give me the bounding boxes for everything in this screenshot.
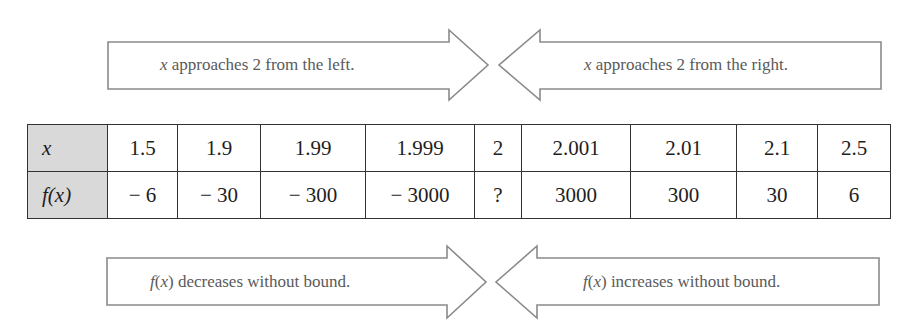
right-approach-label: x approaches 2 from the right.: [584, 56, 788, 73]
table-cell: 2.5: [818, 125, 891, 172]
left-approach-label: x approaches 2 from the left.: [160, 56, 354, 73]
table-cell: 6: [818, 172, 891, 219]
table-cell: 3000: [522, 172, 631, 219]
table-cell: 2.001: [522, 125, 631, 172]
variable-x: x: [584, 55, 592, 74]
values-table-container: x 1.5 1.9 1.99 1.999 2 2.001 2.01 2.1 2.…: [27, 124, 891, 219]
table-cell: − 3000: [366, 172, 475, 219]
table-cell: 1.5: [108, 125, 178, 172]
decreases-label: f(x) decreases without bound.: [150, 273, 350, 290]
table-cell: 30: [737, 172, 818, 219]
increases-label: f(x) increases without bound.: [583, 273, 780, 290]
increases-text: increases without bound.: [607, 272, 781, 291]
table-row-fx: f(x) − 6 − 30 − 300 − 3000 ? 3000 300 30…: [28, 172, 891, 219]
table-cell: − 30: [178, 172, 261, 219]
table-cell: 1.9: [178, 125, 261, 172]
table-cell: 300: [631, 172, 737, 219]
table-cell: ?: [475, 172, 522, 219]
variable-x: x: [160, 272, 168, 291]
right-approach-text: approaches 2 from the right.: [592, 55, 788, 74]
table-cell: 1.999: [366, 125, 475, 172]
decreases-text: decreases without bound.: [174, 272, 351, 291]
row-header-x: x: [28, 125, 108, 172]
row-header-fx: f(x): [28, 172, 108, 219]
values-table: x 1.5 1.9 1.99 1.999 2 2.001 2.01 2.1 2.…: [27, 124, 891, 219]
variable-x: x: [160, 55, 168, 74]
table-cell: 2.1: [737, 125, 818, 172]
table-cell: − 6: [108, 172, 178, 219]
table-cell: 2: [475, 125, 522, 172]
table-cell: 2.01: [631, 125, 737, 172]
left-approach-text: approaches 2 from the left.: [168, 55, 355, 74]
table-cell: − 300: [261, 172, 366, 219]
variable-x: x: [593, 272, 601, 291]
table-row-x: x 1.5 1.9 1.99 1.999 2 2.001 2.01 2.1 2.…: [28, 125, 891, 172]
table-cell: 1.99: [261, 125, 366, 172]
